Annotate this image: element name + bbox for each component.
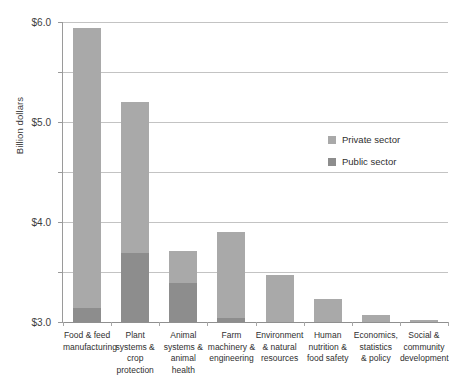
y-axis-title: Billion dollars — [14, 66, 25, 186]
x-axis-category-label: Food & feedmanufacturing — [63, 330, 111, 353]
x-axis-category-label: Animalsystems &animalhealth — [159, 330, 207, 376]
bar-segment-private — [217, 232, 245, 318]
x-axis-category-label: Humannutrition &food safety — [304, 330, 352, 365]
legend-swatch-private-icon — [328, 136, 336, 144]
x-axis-category-label: Plantsystems &cropprotection — [111, 330, 159, 376]
bar-segment-public — [169, 283, 197, 322]
bar-stack — [73, 22, 101, 322]
bar-segment-private — [314, 299, 342, 322]
legend: Private sector Public sector — [328, 134, 400, 178]
y-tick-mark: $2.0 — [58, 222, 63, 223]
x-tick-mark — [304, 322, 305, 326]
y-tick-mark: $3.0 — [58, 172, 63, 173]
x-axis-category-label: Farmmachinery &engineering — [207, 330, 255, 365]
bar-segment-private — [362, 315, 390, 323]
x-axis-category-label: Economics,statistics& policy — [352, 330, 400, 365]
y-tick-mark: $6.0 — [58, 22, 63, 23]
y-tick-mark: $5.0 — [58, 72, 63, 73]
x-axis-category-label: Environment& naturalresources — [256, 330, 304, 365]
legend-item-public: Public sector — [328, 156, 400, 167]
x-tick-mark — [159, 322, 160, 326]
bar-stack — [266, 22, 294, 322]
y-tick-label: $4.0 — [32, 217, 51, 228]
x-tick-mark — [448, 322, 449, 326]
x-tick-mark — [207, 322, 208, 326]
bar-segment-private — [73, 28, 101, 308]
bar-chart: Billion dollars $0.0$1.0$2.0$3.0$4.0$5.0… — [0, 0, 461, 386]
bar-stack — [169, 22, 197, 322]
x-tick-mark — [352, 322, 353, 326]
bar-segment-private — [169, 251, 197, 283]
bar-segment-private — [266, 275, 294, 323]
legend-label-private: Private sector — [342, 134, 400, 145]
y-tick-label: $5.0 — [32, 117, 51, 128]
y-tick-label: $6.0 — [32, 17, 51, 28]
bar-stack — [121, 22, 149, 322]
x-tick-mark — [400, 322, 401, 326]
x-tick-mark — [256, 322, 257, 326]
bar-segment-public — [73, 308, 101, 322]
bar-segment-public — [217, 318, 245, 322]
bar-segment-public — [121, 253, 149, 322]
bar-stack — [410, 22, 438, 322]
legend-label-public: Public sector — [342, 156, 396, 167]
x-axis-category-label: Social &communitydevelopment — [400, 330, 448, 365]
legend-swatch-public-icon — [328, 158, 336, 166]
y-tick-mark: $4.0 — [58, 122, 63, 123]
bar-segment-private — [410, 320, 438, 323]
bar-segment-private — [121, 102, 149, 253]
y-tick-mark: $1.0 — [58, 272, 63, 273]
x-tick-mark — [63, 322, 64, 326]
bar-stack — [217, 22, 245, 322]
x-tick-mark — [111, 322, 112, 326]
legend-item-private: Private sector — [328, 134, 400, 145]
y-tick-label: $3.0 — [32, 317, 51, 328]
